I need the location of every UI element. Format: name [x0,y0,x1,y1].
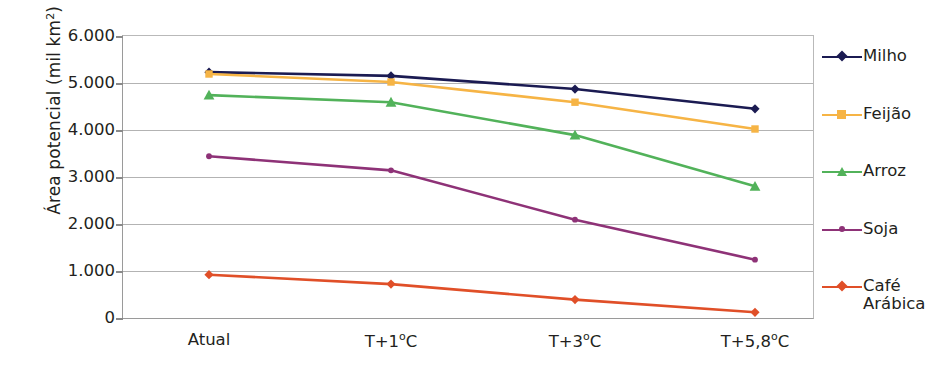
x-axis-tick-label: Atual [139,330,279,349]
legend-item-soja[interactable]: Soja [822,220,898,239]
legend-label: Arroz [862,162,906,180]
y-axis-tick-label: 1.000 [33,261,115,280]
gridline [123,224,813,225]
legend-label: Feijão [862,105,911,123]
legend-marker-icon [839,226,845,232]
x-axis-tick-label: T+5,8oC [685,330,825,351]
legend-marker-icon [836,50,847,61]
x-axis-tick-label: T+3oC [505,330,645,351]
legend-swatch-icon [822,48,862,66]
y-axis-tick [116,36,123,38]
legend-swatch-icon [822,163,862,181]
y-axis-tick [116,130,123,132]
y-axis-tick [116,83,123,85]
legend-label: Soja [862,220,898,238]
legend-item-milho[interactable]: Milho [822,47,907,66]
y-axis-tick-label: 3.000 [33,167,115,186]
y-axis-title-superscript: 2 [44,13,57,20]
y-axis-tick-label: 6.000 [33,26,115,45]
x-axis-tick-label: T+1oC [321,330,461,351]
legend-item-feij-o[interactable]: Feijão [822,105,911,124]
legend-swatch-icon [822,106,862,124]
y-axis-tick [116,318,123,320]
gridline [123,177,813,178]
y-axis-tick-label: 2.000 [33,214,115,233]
gridline [123,130,813,131]
gridline [123,271,813,272]
legend-item-caf-ar-bica[interactable]: Café Arábica [822,277,925,313]
y-axis-tick-label: 5.000 [33,73,115,92]
legend-marker-icon [836,280,847,291]
y-axis-tick-label: 4.000 [33,120,115,139]
legend-label: Café Arábica [862,277,925,313]
legend-label: Milho [862,47,907,65]
gridline [123,83,813,84]
legend-swatch-icon [822,221,862,239]
legend-swatch-icon [822,278,862,296]
y-axis-tick [116,271,123,273]
legend-marker-icon [837,110,846,119]
y-axis-tick [116,177,123,179]
y-axis-tick-label: 0 [33,308,115,327]
legend-item-arroz[interactable]: Arroz [822,162,906,181]
chart-root: Área potencial (mil km2) 6.0005.0004.000… [0,0,939,381]
y-axis-title-close: ) [44,6,64,13]
plot-area [122,35,814,319]
legend-marker-icon [837,167,847,176]
y-axis-tick [116,224,123,226]
